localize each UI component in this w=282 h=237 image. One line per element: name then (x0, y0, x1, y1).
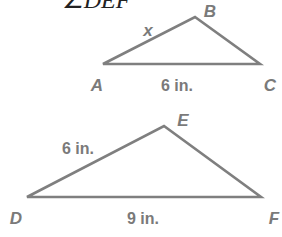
side-label-df: 9 in. (127, 210, 159, 227)
side-label-ab: x (142, 21, 154, 40)
vertex-label-a: A (90, 76, 103, 95)
side-label-de: 6 in. (62, 140, 94, 157)
vertex-label-f: F (269, 209, 280, 228)
triangle-def: D E F 6 in. 9 in. (10, 111, 280, 228)
similar-triangles-diagram: ∠DEF A B C x 6 in. D E F 6 in. 9 in. (0, 0, 282, 237)
triangle-abc-outline (103, 17, 260, 64)
triangle-def-outline (27, 126, 261, 197)
vertex-label-b: B (204, 2, 216, 21)
triangle-abc: A B C x 6 in. (90, 2, 277, 95)
vertex-label-d: D (10, 209, 22, 228)
vertex-label-e: E (177, 111, 189, 130)
angle-def-header-fragment: ∠DEF (62, 0, 131, 13)
side-label-ac: 6 in. (161, 77, 193, 94)
vertex-label-c: C (264, 76, 277, 95)
